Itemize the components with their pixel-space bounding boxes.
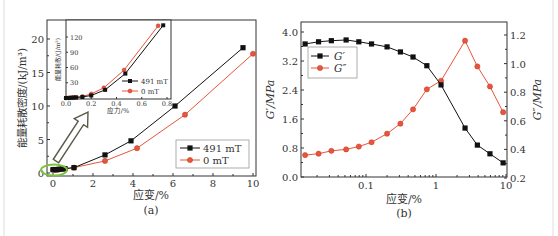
square-marker [187, 145, 192, 150]
circle-marker [398, 121, 403, 126]
legend: G′G″ [308, 47, 357, 78]
y-left-tick-label: 4.0 [282, 27, 298, 38]
square-marker [356, 39, 361, 44]
x-tick-label: 4 [130, 178, 136, 189]
y-left-tick-label: 0.0 [282, 172, 298, 183]
circle-marker [182, 112, 187, 117]
square-marker [74, 95, 78, 99]
inset-x-tick-label: 0.8 [162, 100, 172, 108]
y-tick-label: 15 [31, 68, 44, 79]
x-tick-label: 8 [210, 178, 216, 189]
square-marker [398, 49, 403, 54]
circle-marker [329, 148, 334, 153]
square-marker [89, 93, 93, 97]
inset-y-tick-label: 90 [70, 49, 78, 57]
inset-x-tick-label: 0.0 [61, 100, 71, 108]
chart-a-caption: (a) [143, 204, 158, 217]
square-marker [487, 151, 492, 156]
square-marker [384, 44, 389, 49]
y-right-tick-label: 0.8 [510, 87, 526, 98]
inset-x-tick-label: 0.2 [86, 100, 96, 108]
legend: 491 mT0 mT [176, 140, 249, 168]
y-right-tick-label: 0.2 [510, 173, 526, 184]
circle-marker [102, 158, 107, 163]
circle-marker [384, 131, 389, 136]
legend-label: 0 mT [203, 155, 229, 166]
square-marker [501, 160, 506, 165]
circle-marker [369, 140, 374, 145]
circle-marker [462, 38, 467, 43]
circle-marker [501, 110, 506, 115]
square-marker [462, 125, 467, 130]
circle-marker [156, 24, 160, 28]
inset-x-tick-label: 0.6 [137, 100, 147, 108]
x-tick-label: 0.1 [358, 180, 374, 191]
circle-marker [187, 157, 192, 162]
square-marker [102, 152, 107, 157]
circle-marker [344, 147, 349, 152]
inset-legend-label: 0 mT [141, 88, 159, 96]
chart-b-caption: (b) [396, 207, 412, 220]
x-tick-label: 1 [433, 180, 439, 191]
inset-x-label: 应力/% [107, 106, 129, 115]
inset-y-label: 能量耗散/(J/m³) [54, 38, 62, 81]
y-left-axis-label: G′/MPa [264, 80, 277, 120]
square-marker [317, 53, 322, 58]
square-marker [172, 103, 177, 108]
circle-marker [134, 146, 139, 151]
y-left-tick-label: 2.4 [282, 85, 298, 96]
square-marker [161, 23, 165, 27]
legend-label: 491 mT [203, 143, 242, 154]
square-marker [303, 41, 308, 46]
square-marker [103, 88, 107, 92]
inset-y-tick-label: 60 [70, 64, 78, 72]
circle-marker [250, 51, 255, 56]
legend-box [308, 47, 357, 78]
plot-frame [301, 22, 507, 177]
square-marker [369, 41, 374, 46]
y-left-tick-label: 1.6 [282, 114, 298, 125]
circle-marker [487, 84, 492, 89]
chart-a-energy-dissipation: 024681005101520能量耗散密度/(kJ/m³)491 mT0 mT0… [16, 20, 259, 189]
square-marker [123, 72, 127, 76]
y-right-tick-label: 1.2 [510, 30, 526, 41]
circle-marker [128, 89, 132, 93]
circle-marker [424, 87, 429, 92]
square-marker [410, 54, 415, 59]
circle-marker [317, 65, 322, 70]
circle-marker [316, 151, 321, 156]
y-left-tick-label: 3.2 [282, 56, 298, 67]
x-tick-label: 0 [50, 178, 56, 189]
square-marker [71, 165, 76, 170]
legend-label: G″ [334, 62, 346, 74]
circle-marker [475, 64, 480, 69]
circle-marker [122, 68, 126, 72]
y-tick-label: 10 [31, 101, 44, 112]
inset-y-tick-label: 30 [70, 79, 78, 87]
square-marker [128, 138, 133, 143]
y-tick-label: 20 [31, 34, 44, 45]
inset-legend-label: 491 mT [141, 78, 168, 86]
square-marker [424, 63, 429, 68]
y-right-axis-label: G″/MPa [531, 79, 544, 120]
square-marker [475, 143, 480, 148]
chart-b-xlabel: 应变/% [386, 192, 422, 206]
inset-y-tick-label: 120 [70, 34, 82, 42]
square-marker [344, 37, 349, 42]
figure-canvas: 024681005101520能量耗散密度/(kJ/m³)491 mT0 mT0… [0, 0, 558, 236]
circle-marker [356, 144, 361, 149]
x-tick-label: 2 [90, 178, 96, 189]
square-marker [316, 39, 321, 44]
y-left-tick-label: 0.8 [282, 143, 298, 154]
square-marker [329, 38, 334, 43]
y-right-tick-label: 1.0 [510, 59, 526, 70]
x-tick-label: 10 [247, 178, 260, 189]
x-tick-label: 6 [170, 178, 176, 189]
chart-a-xlabel: 应变/% [133, 188, 169, 202]
circle-marker [410, 107, 415, 112]
circle-marker [303, 153, 308, 158]
y-axis-label: 能量耗散密度/(kJ/m³) [16, 48, 28, 148]
y-tick-label: 5 [38, 135, 44, 146]
square-marker [80, 95, 84, 99]
square-marker [240, 45, 245, 50]
